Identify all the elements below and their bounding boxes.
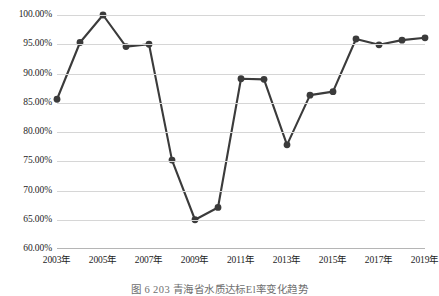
y-axis-tick-label: 90.00% xyxy=(23,68,52,78)
y-axis-tick-label: 95.00% xyxy=(23,38,52,48)
x-axis-tick-label: 2017年 xyxy=(365,252,394,266)
y-axis-tick-labels: 100.00%95.00%90.00%85.00%80.00%75.00%70.… xyxy=(0,15,52,249)
series-line xyxy=(57,15,425,220)
figure-caption: 图 6 203 青海省水质达标El率变化趋势 xyxy=(0,281,439,296)
data-point-marker xyxy=(215,204,222,211)
gridline xyxy=(57,220,425,221)
line-chart: 100.00%95.00%90.00%85.00%80.00%75.00%70.… xyxy=(0,0,439,270)
data-point-marker xyxy=(238,75,245,82)
gridline xyxy=(57,15,425,16)
y-axis-tick-label: 85.00% xyxy=(23,97,52,107)
x-axis-tick-label: 2013年 xyxy=(273,252,302,266)
x-axis-tick-labels: 2003年2005年2007年2009年2011年2013年2015年2017年… xyxy=(57,252,425,270)
x-axis-tick-label: 2019年 xyxy=(411,252,439,266)
data-point-marker xyxy=(422,34,429,41)
gridline xyxy=(57,191,425,192)
data-point-marker xyxy=(353,36,360,43)
gridline xyxy=(57,132,425,133)
y-axis-tick-label: 75.00% xyxy=(23,155,52,165)
y-axis-tick-label: 80.00% xyxy=(23,126,52,136)
gridline xyxy=(57,103,425,104)
x-axis-tick-label: 2007年 xyxy=(135,252,164,266)
data-point-marker xyxy=(330,88,337,95)
data-point-marker xyxy=(54,96,61,103)
figure-container: 100.00%95.00%90.00%85.00%80.00%75.00%70.… xyxy=(0,0,439,296)
data-point-marker xyxy=(261,76,268,83)
y-axis-tick-label: 65.00% xyxy=(23,214,52,224)
gridline xyxy=(57,161,425,162)
x-axis-tick-label: 2005年 xyxy=(89,252,118,266)
data-point-marker xyxy=(399,37,406,44)
gridline xyxy=(57,44,425,45)
gridline xyxy=(57,74,425,75)
x-axis-line xyxy=(57,248,425,249)
y-axis-tick-label: 70.00% xyxy=(23,185,52,195)
y-axis-tick-label: 100.00% xyxy=(19,9,52,19)
x-axis-tick-label: 2009年 xyxy=(181,252,210,266)
data-point-marker xyxy=(169,157,176,164)
x-axis-tick-label: 2015年 xyxy=(319,252,348,266)
plot-area xyxy=(57,15,425,249)
x-axis-tick-label: 2011年 xyxy=(227,252,255,266)
x-axis-tick-label: 2003年 xyxy=(43,252,72,266)
data-point-marker xyxy=(307,92,314,99)
data-point-marker xyxy=(284,141,291,148)
